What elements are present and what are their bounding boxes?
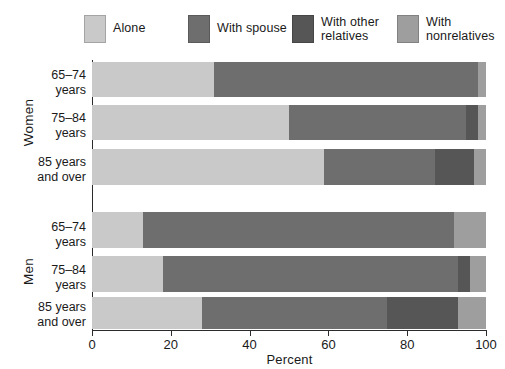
bar-segment-alone [92, 212, 143, 248]
chart-legend: Alone With spouse With other relatives W… [0, 10, 505, 54]
x-tick-label-20: 20 [151, 337, 191, 352]
bar-segment-with-other-relatives [458, 256, 470, 292]
bar-men-85-years-and-over [92, 297, 486, 329]
x-tick-label-60: 60 [308, 337, 348, 352]
category-label-men-75-84: 75–84 years [4, 263, 86, 292]
chart-container: Alone With spouse With other relatives W… [0, 0, 505, 369]
plot-area [92, 60, 486, 330]
x-tick-label-80: 80 [387, 337, 427, 352]
x-tick-mark-80 [407, 331, 408, 336]
x-tick-mark-0 [92, 331, 93, 336]
legend-label-with-other-relatives: With other relatives [321, 15, 379, 43]
bar-segment-with-other-relatives [435, 149, 474, 185]
x-tick-label-100: 100 [466, 337, 505, 352]
x-axis-line [92, 330, 487, 331]
bar-segment-alone [92, 62, 214, 97]
bar-segment-with-nonrelatives [454, 212, 486, 248]
bar-segment-with-spouse [324, 149, 434, 185]
bar-women-65-74-years [92, 62, 486, 97]
bar-women-85-years-and-over [92, 149, 486, 185]
legend-item-with-spouse[interactable]: With spouse [188, 15, 287, 43]
x-tick-label-0: 0 [72, 337, 112, 352]
bar-segment-with-nonrelatives [458, 297, 486, 329]
x-tick-mark-40 [250, 331, 251, 336]
bar-segment-with-spouse [214, 62, 478, 97]
bar-segment-with-other-relatives [466, 105, 478, 140]
bar-segment-alone [92, 105, 289, 140]
legend-label-with-spouse: With spouse [217, 15, 287, 36]
legend-label-with-nonrelatives: With nonrelatives [426, 15, 495, 43]
legend-swatch-with-nonrelatives [397, 15, 419, 43]
legend-item-with-nonrelatives[interactable]: With nonrelatives [397, 15, 495, 43]
bar-segment-alone [92, 297, 202, 329]
x-tick-label-40: 40 [230, 337, 270, 352]
x-tick-mark-100 [486, 331, 487, 336]
bar-segment-with-spouse [289, 105, 466, 140]
legend-swatch-with-other-relatives [292, 15, 314, 43]
category-label-women-65-74: 65–74 years [4, 68, 86, 97]
bar-segment-with-spouse [143, 212, 454, 248]
bar-women-75-84-years [92, 105, 486, 140]
category-label-women-85-over: 85 years and over [4, 155, 86, 184]
category-label-women-75-84: 75–84 years [4, 111, 86, 140]
bar-segment-alone [92, 256, 163, 292]
bar-men-65-74-years [92, 212, 486, 248]
bar-segment-with-nonrelatives [470, 256, 486, 292]
bar-segment-with-nonrelatives [474, 149, 486, 185]
legend-swatch-with-spouse [188, 15, 210, 43]
legend-item-with-other-relatives[interactable]: With other relatives [292, 15, 379, 43]
legend-label-alone: Alone [113, 15, 145, 36]
bar-men-75-84-years [92, 256, 486, 292]
category-label-men-85-over: 85 years and over [4, 300, 86, 329]
x-tick-mark-20 [171, 331, 172, 336]
category-label-men-65-74: 65–74 years [4, 220, 86, 249]
bar-segment-with-nonrelatives [478, 62, 486, 97]
bar-segment-with-other-relatives [387, 297, 458, 329]
bar-segment-with-nonrelatives [478, 105, 486, 140]
legend-swatch-alone [84, 15, 106, 43]
x-axis-title: Percent [92, 352, 487, 367]
bar-segment-with-spouse [163, 256, 459, 292]
legend-item-alone[interactable]: Alone [84, 15, 145, 43]
bar-segment-with-spouse [202, 297, 387, 329]
x-tick-mark-60 [328, 331, 329, 336]
bar-segment-alone [92, 149, 324, 185]
